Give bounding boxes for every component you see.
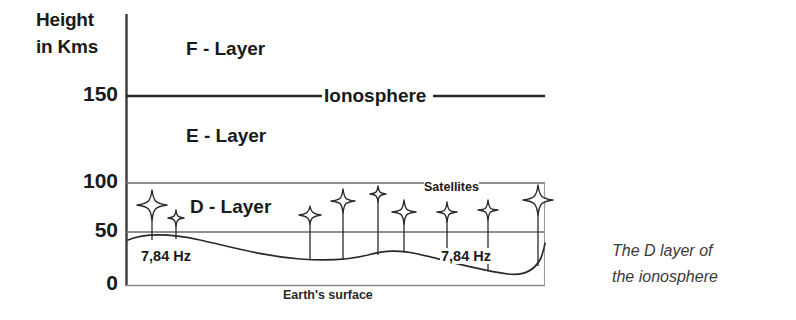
satellite-star-icon	[478, 200, 498, 220]
satellites-label: Satellites	[424, 180, 479, 194]
satellite-star-icon	[392, 200, 416, 224]
satellite-star-icon	[168, 210, 184, 226]
satellite-star-icon	[137, 190, 167, 220]
satellite-star-icon	[299, 206, 321, 224]
satellite-star-icon	[523, 185, 553, 215]
ionosphere-diagram: Height in Kms 150 100 50 0	[0, 0, 796, 320]
satellite-star-icon	[437, 202, 457, 222]
satellite-star-icon	[331, 189, 355, 213]
f-layer-label: F - Layer	[186, 38, 265, 60]
ionosphere-label: Ionosphere	[322, 85, 428, 107]
d-layer-label: D - Layer	[190, 196, 271, 218]
caption-line2: the ionosphere	[612, 264, 718, 290]
satellite-star-icon	[370, 186, 386, 202]
earth-surface-label: Earth's surface	[283, 288, 373, 302]
e-layer-label: E - Layer	[186, 125, 266, 147]
frequency-label-left: 7,84 Hz	[140, 248, 192, 264]
caption-line1: The D layer of	[612, 238, 712, 264]
frequency-label-right: 7,84 Hz	[440, 248, 492, 264]
